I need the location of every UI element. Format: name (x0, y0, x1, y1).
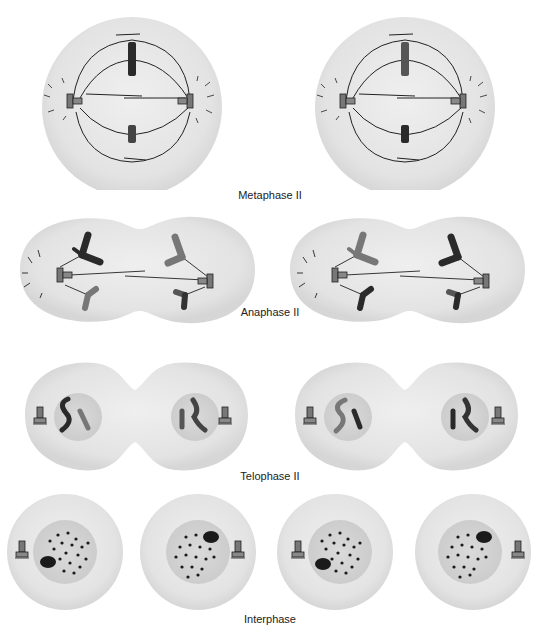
telophase-ii-illustration (0, 355, 540, 485)
metaphase-ii-illustration (0, 0, 540, 190)
telophase-ii-stage: Telophase II (0, 355, 540, 485)
interphase-cell-3 (277, 494, 393, 610)
interphase-cell-2 (140, 494, 256, 610)
stage-label-interphase: Interphase (0, 613, 540, 625)
telophase-cell-right (295, 363, 518, 471)
stage-label-metaphase-ii: Metaphase II (0, 189, 540, 201)
metaphase-ii-stage: Metaphase II (0, 0, 540, 205)
telophase-cell-left (25, 363, 248, 471)
anaphase-ii-stage: Anaphase II (0, 205, 540, 325)
interphase-illustration (0, 487, 540, 617)
interphase-cell-4 (415, 494, 531, 610)
stage-label-anaphase-ii: Anaphase II (0, 306, 540, 318)
interphase-stage: Interphase (0, 487, 540, 636)
stage-label-telophase-ii: Telophase II (0, 470, 540, 482)
metaphase-cell-right (315, 17, 495, 190)
metaphase-cell-left (42, 17, 222, 190)
